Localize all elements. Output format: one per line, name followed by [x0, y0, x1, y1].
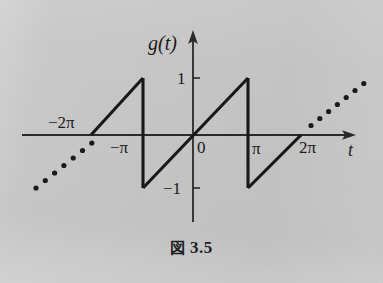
dot	[61, 163, 66, 168]
dot	[89, 140, 94, 145]
dot	[52, 170, 57, 175]
dot	[335, 102, 340, 107]
x-tick-label-minus-pi: −π	[110, 139, 128, 156]
x-tick-label-pi: π	[252, 140, 261, 157]
figure-container: g(t) t 1 −1 −2π −π 0 π 2π 図3.5	[0, 0, 383, 283]
figure-caption: 図3.5	[0, 236, 383, 258]
y-tick-label-one: 1	[177, 70, 186, 87]
dot	[80, 148, 85, 153]
y-axis-title: g(t)	[148, 33, 177, 53]
waveform-branch-center	[143, 78, 248, 188]
dot	[71, 155, 76, 160]
x-tick-label-zero: 0	[197, 139, 206, 156]
caption-label: 図	[170, 239, 186, 257]
dot	[317, 116, 322, 121]
caption-number: 3.5	[190, 238, 213, 257]
x-tick-label-minus-two-pi: −2π	[48, 114, 75, 131]
x-tick-label-two-pi: 2π	[299, 139, 316, 156]
dot	[308, 123, 313, 128]
y-axis	[188, 30, 198, 222]
continuation-dots-right	[308, 81, 366, 128]
dot	[352, 88, 357, 93]
dot	[361, 81, 366, 86]
dot	[344, 95, 349, 100]
continuation-dots-left	[33, 140, 94, 190]
x-axis-title: t	[348, 141, 353, 159]
y-tick-label-minus-one: −1	[163, 180, 181, 197]
waveform-branch-left-upper	[91, 78, 143, 135]
dot	[43, 178, 48, 183]
sawtooth-waveform	[91, 78, 301, 188]
dot	[326, 109, 331, 114]
dot	[33, 185, 38, 190]
